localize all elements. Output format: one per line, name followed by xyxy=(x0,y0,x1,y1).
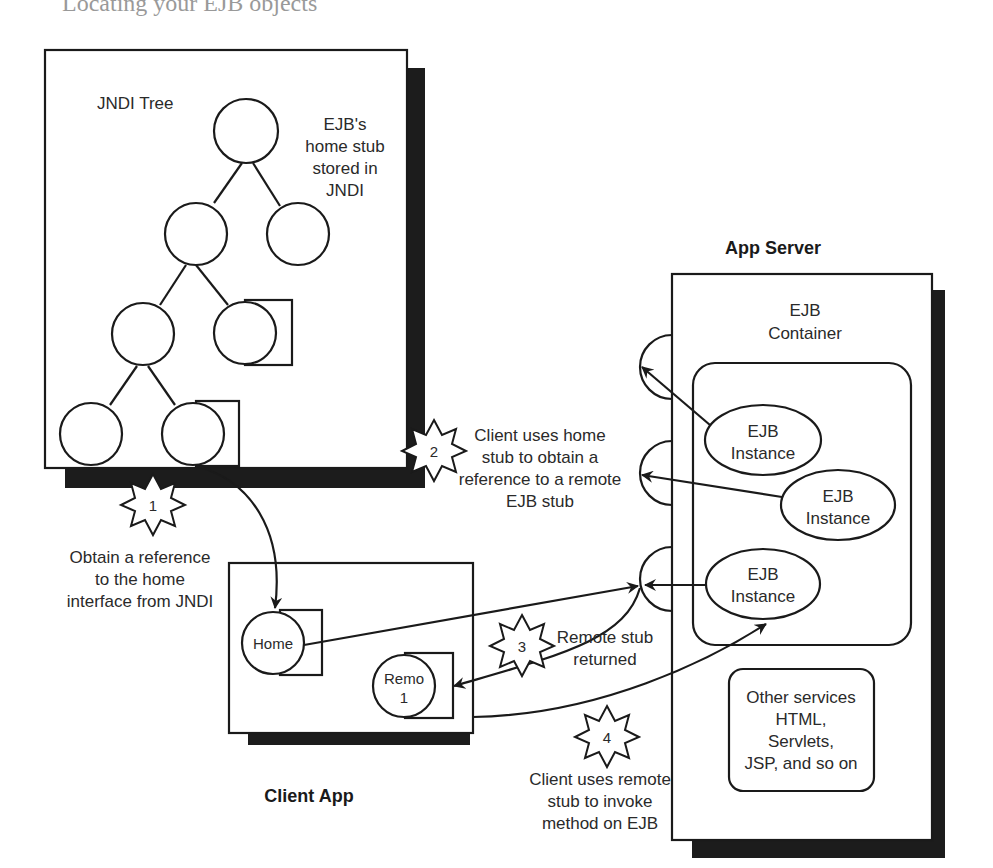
jndi-home-stub-node xyxy=(162,401,239,466)
svg-text:returned: returned xyxy=(573,650,636,669)
step-1-badge: 1 xyxy=(121,474,185,535)
svg-text:1: 1 xyxy=(149,497,157,514)
svg-text:stub to invoke: stub to invoke xyxy=(548,792,653,811)
svg-text:JSP, and so on: JSP, and so on xyxy=(744,754,857,773)
svg-text:Instance: Instance xyxy=(731,587,795,606)
svg-text:EJB: EJB xyxy=(747,565,778,584)
svg-text:interface from JNDI: interface from JNDI xyxy=(67,592,213,611)
svg-text:EJB stub: EJB stub xyxy=(506,492,574,511)
ejb-instance-3: EJB Instance xyxy=(706,549,820,619)
step-4-badge: 4 xyxy=(575,706,639,767)
step-4-caption: Client uses remote stub to invoke method… xyxy=(529,770,671,833)
step-1-caption: Obtain a reference to the home interface… xyxy=(67,548,213,611)
client-app-panel: Client App Home Remo 1 xyxy=(229,563,473,806)
home-stub: Home xyxy=(242,610,322,675)
app-server-panel: App Server EJB Container EJB Instance EJ… xyxy=(640,238,945,858)
jndi-root-node xyxy=(214,99,278,163)
jndi-stub-node xyxy=(214,300,292,365)
svg-text:stub to obtain a: stub to obtain a xyxy=(482,448,599,467)
jndi-node xyxy=(267,203,329,265)
svg-text:method on EJB: method on EJB xyxy=(542,814,658,833)
svg-text:Home: Home xyxy=(253,635,293,652)
other-services-box: Other services HTML, Servlets, JSP, and … xyxy=(729,669,874,791)
svg-text:1: 1 xyxy=(400,689,408,706)
svg-text:stored in: stored in xyxy=(312,159,377,178)
jndi-tree-title: JNDI Tree xyxy=(97,94,174,113)
svg-text:EJB's: EJB's xyxy=(324,115,367,134)
svg-text:4: 4 xyxy=(603,729,611,746)
svg-text:Instance: Instance xyxy=(806,509,870,528)
svg-text:HTML,: HTML, xyxy=(776,710,827,729)
jndi-node xyxy=(60,403,122,465)
svg-text:3: 3 xyxy=(518,638,526,655)
remote-stub: Remo 1 xyxy=(373,653,453,718)
step-2-badge: 2 xyxy=(402,420,466,481)
svg-text:Remote stub: Remote stub xyxy=(557,628,653,647)
svg-text:Other services: Other services xyxy=(746,688,856,707)
svg-text:Client uses remote: Client uses remote xyxy=(529,770,671,789)
ejb-instance-1: EJB Instance xyxy=(705,405,821,475)
svg-text:Container: Container xyxy=(768,324,842,343)
svg-text:EJB: EJB xyxy=(822,487,853,506)
svg-text:2: 2 xyxy=(430,443,438,460)
svg-text:reference to a remote: reference to a remote xyxy=(459,470,622,489)
client-app-title: Client App xyxy=(264,786,353,806)
remote-interface-port xyxy=(640,441,672,505)
app-server-title: App Server xyxy=(725,238,821,258)
jndi-node xyxy=(165,203,227,265)
ejb-lookup-diagram: JNDI Tree EJB's home stub stored in JNDI xyxy=(0,0,993,868)
svg-text:EJB: EJB xyxy=(789,301,820,320)
remote-interface-port xyxy=(640,547,672,611)
svg-text:Remo: Remo xyxy=(384,670,424,687)
svg-text:EJB: EJB xyxy=(747,422,778,441)
svg-text:Servlets,: Servlets, xyxy=(768,732,834,751)
svg-text:JNDI: JNDI xyxy=(326,181,364,200)
jndi-tree-panel: JNDI Tree EJB's home stub stored in JNDI xyxy=(45,50,425,488)
step-3-badge: 3 xyxy=(490,615,554,676)
svg-text:to the home: to the home xyxy=(95,570,185,589)
jndi-node xyxy=(112,303,174,365)
svg-text:home stub: home stub xyxy=(305,137,384,156)
svg-text:Client uses home: Client uses home xyxy=(474,426,605,445)
step-2-caption: Client uses home stub to obtain a refere… xyxy=(459,426,622,511)
svg-text:Obtain a reference: Obtain a reference xyxy=(70,548,211,567)
ejb-instance-2: EJB Instance xyxy=(781,470,895,540)
svg-text:Instance: Instance xyxy=(731,444,795,463)
